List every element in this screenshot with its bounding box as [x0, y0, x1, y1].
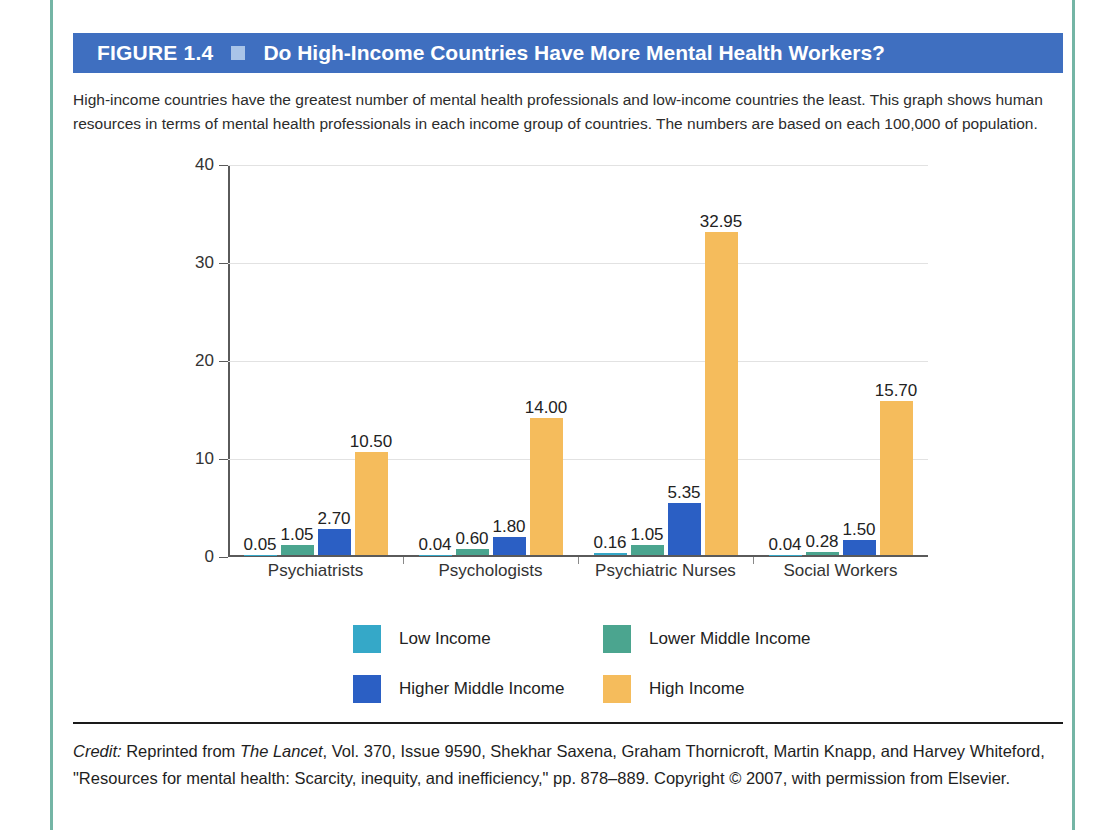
bar-value-label: 1.80	[492, 518, 525, 535]
chart: 0102030400.051.052.7010.50Psychiatrists0…	[68, 155, 1068, 595]
bar[interactable]	[843, 540, 876, 555]
legend-item[interactable]: Low Income	[353, 625, 603, 653]
bar-column: 5.35	[668, 163, 701, 555]
bar[interactable]	[493, 537, 526, 555]
bar-group: 0.161.055.3532.95Psychiatric Nurses	[578, 163, 753, 555]
bar-column: 1.05	[281, 163, 314, 555]
bar-column: 1.80	[493, 163, 526, 555]
x-axis-tick-mark	[578, 557, 579, 564]
y-axis-tick-mark	[219, 263, 228, 264]
bar[interactable]	[419, 555, 452, 556]
x-axis-category-label: Social Workers	[784, 561, 898, 581]
legend-swatch-icon	[603, 625, 631, 653]
figure-number: FIGURE 1.4	[97, 41, 213, 65]
bar-column: 0.04	[419, 163, 452, 555]
page-edge-rule-right	[1072, 0, 1075, 830]
bar-value-label: 1.05	[280, 526, 313, 543]
legend-label: Lower Middle Income	[649, 629, 811, 649]
bar-column: 0.16	[594, 163, 627, 555]
legend-swatch-icon	[603, 675, 631, 703]
bar[interactable]	[530, 418, 563, 555]
bar-value-label: 15.70	[875, 382, 918, 399]
bar-group: 0.040.281.5015.70Social Workers	[753, 163, 928, 555]
bar-column: 0.04	[769, 163, 802, 555]
bar-value-label: 0.16	[593, 534, 626, 551]
credit-divider	[73, 722, 1063, 724]
bar[interactable]	[631, 545, 664, 555]
bar[interactable]	[705, 232, 738, 555]
y-axis-tick-label: 20	[154, 351, 214, 371]
bar-value-label: 1.05	[630, 526, 663, 543]
figure-caption: High-income countries have the greatest …	[73, 88, 1053, 136]
legend-item[interactable]: High Income	[603, 675, 853, 703]
y-axis-tick-mark	[219, 165, 228, 166]
bar-value-label: 0.04	[768, 536, 801, 553]
credit-label: Credit:	[73, 742, 122, 760]
bar-column: 2.70	[318, 163, 351, 555]
bar-group: 0.051.052.7010.50Psychiatrists	[228, 163, 403, 555]
figure-sheet: FIGURE 1.4 Do High-Income Countries Have…	[68, 0, 1068, 830]
bar[interactable]	[880, 401, 913, 555]
y-axis-tick-label: 0	[154, 547, 214, 567]
y-axis-tick-mark	[219, 557, 228, 558]
bar[interactable]	[355, 452, 388, 555]
bar-group-bars: 0.040.601.8014.00	[403, 163, 578, 555]
x-axis-category-label: Psychologists	[439, 561, 543, 581]
square-separator-icon	[231, 46, 245, 60]
figure-header-bar: FIGURE 1.4 Do High-Income Countries Have…	[73, 33, 1063, 73]
bar[interactable]	[244, 555, 277, 556]
bar-column: 0.05	[244, 163, 277, 555]
x-axis-tick-mark	[753, 557, 754, 564]
legend-item[interactable]: Higher Middle Income	[353, 675, 603, 703]
bar-value-label: 0.60	[455, 530, 488, 547]
bar-column: 1.50	[843, 163, 876, 555]
chart-legend: Low IncomeLower Middle IncomeHigher Midd…	[353, 625, 873, 703]
bar-group-bars: 0.051.052.7010.50	[228, 163, 403, 555]
bar-value-label: 0.05	[243, 536, 276, 553]
legend-swatch-icon	[353, 625, 381, 653]
bar-column: 0.28	[806, 163, 839, 555]
bar-column: 1.05	[631, 163, 664, 555]
x-axis-category-label: Psychiatrists	[268, 561, 363, 581]
bar[interactable]	[456, 549, 489, 555]
credit-before-source: Reprinted from	[122, 742, 240, 760]
bar-column: 0.60	[456, 163, 489, 555]
bar-column: 10.50	[355, 163, 388, 555]
bar-column: 32.95	[705, 163, 738, 555]
bar-value-label: 0.28	[805, 533, 838, 550]
legend-item[interactable]: Lower Middle Income	[603, 625, 853, 653]
bar-value-label: 1.50	[842, 521, 875, 538]
bar-value-label: 10.50	[350, 433, 393, 450]
bar-value-label: 5.35	[667, 484, 700, 501]
bar[interactable]	[668, 503, 701, 555]
legend-label: High Income	[649, 679, 744, 699]
bar-column: 14.00	[530, 163, 563, 555]
legend-swatch-icon	[353, 675, 381, 703]
bar-value-label: 14.00	[525, 399, 568, 416]
bar[interactable]	[318, 529, 351, 555]
y-axis-tick-label: 40	[154, 155, 214, 175]
bar-value-label: 2.70	[317, 510, 350, 527]
legend-label: Higher Middle Income	[399, 679, 564, 699]
bar[interactable]	[281, 545, 314, 555]
figure-title: Do High-Income Countries Have More Menta…	[263, 41, 885, 65]
plot-area: 0102030400.051.052.7010.50Psychiatrists0…	[228, 165, 928, 557]
y-axis-tick-mark	[219, 361, 228, 362]
bar-group-bars: 0.040.281.5015.70	[753, 163, 928, 555]
bar[interactable]	[806, 552, 839, 555]
legend-label: Low Income	[399, 629, 491, 649]
bar-value-label: 0.04	[418, 536, 451, 553]
y-axis-tick-mark	[219, 459, 228, 460]
y-axis-tick-label: 30	[154, 253, 214, 273]
bar-group: 0.040.601.8014.00Psychologists	[403, 163, 578, 555]
credit-source: The Lancet	[240, 742, 323, 760]
bar[interactable]	[594, 553, 627, 555]
x-axis-tick-mark	[403, 557, 404, 564]
bar-column: 15.70	[880, 163, 913, 555]
y-axis-tick-label: 10	[154, 449, 214, 469]
bar[interactable]	[769, 555, 802, 556]
page-edge-rule-left	[50, 0, 53, 830]
bar-value-label: 32.95	[700, 213, 743, 230]
bar-group-bars: 0.161.055.3532.95	[578, 163, 753, 555]
credit-text: Credit: Reprinted from The Lancet, Vol. …	[73, 738, 1063, 791]
